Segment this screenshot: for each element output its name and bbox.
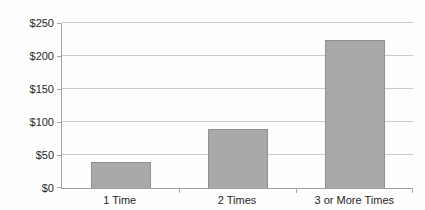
bars-row — [62, 23, 413, 188]
bar-chart: $250 $200 $150 $100 $50 $0 — [0, 0, 425, 210]
plot-area — [61, 23, 413, 189]
category-slot-3-or-more-times — [296, 23, 413, 188]
category-slot-2-times — [179, 23, 296, 188]
y-axis-tick-label: $250 — [0, 17, 54, 29]
category-slot-1-time — [62, 23, 179, 188]
y-axis-tick-label: $100 — [0, 116, 54, 128]
x-axis-tick — [179, 188, 180, 193]
x-axis-category-label: 1 Time — [61, 194, 178, 207]
x-axis-tick — [412, 188, 413, 193]
y-axis-tick-label: $150 — [0, 83, 54, 95]
bar-2-times — [208, 129, 268, 188]
bar-3-or-more-times — [325, 40, 385, 189]
x-axis-category-label: 3 or More Times — [296, 194, 413, 207]
x-axis-labels: 1 Time 2 Times 3 or More Times — [61, 194, 413, 207]
y-axis-tick-label: $50 — [0, 149, 54, 161]
y-axis-tick-label: $0 — [0, 182, 54, 194]
bar-1-time — [91, 162, 151, 188]
x-axis-category-label: 2 Times — [178, 194, 295, 207]
x-axis-tick — [296, 188, 297, 193]
y-axis-tick-label: $200 — [0, 50, 54, 62]
